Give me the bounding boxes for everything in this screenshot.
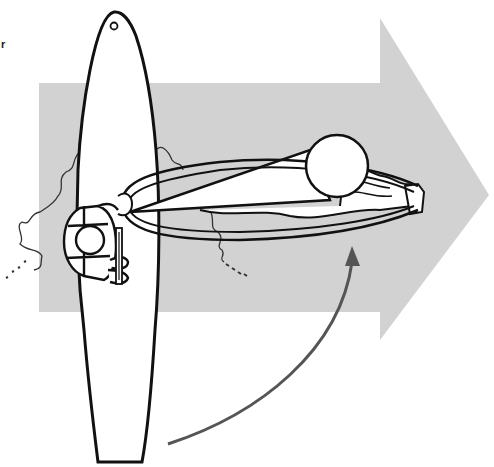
board-mast-hole <box>111 23 118 30</box>
illustration <box>0 0 494 467</box>
